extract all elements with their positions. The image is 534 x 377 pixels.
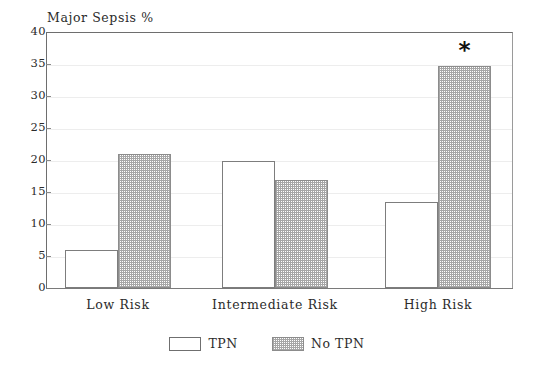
legend-label-tpn: TPN: [208, 336, 238, 351]
x-tick-label-intermediate-risk: Intermediate Risk: [212, 297, 338, 312]
bar-low-risk-tpn: [65, 250, 118, 288]
bar-intermediate-risk-no-tpn: [275, 180, 328, 288]
x-axis-baseline: [46, 288, 513, 289]
legend-swatch-no-tpn: [272, 337, 304, 351]
y-tick-label-15: 15: [8, 186, 46, 198]
y-tick-label-5: 5: [8, 250, 46, 262]
legend-item-tpn: TPN: [169, 336, 238, 351]
bar-high-risk-tpn: [385, 202, 438, 288]
bar-low-risk-no-tpn: [118, 154, 171, 288]
y-tick-label-35: 35: [8, 58, 46, 70]
y-tick-label-10: 10: [8, 218, 46, 230]
legend-item-no-tpn: No TPN: [272, 336, 365, 351]
y-tick-label-20: 20: [8, 154, 46, 166]
legend-label-no-tpn: No TPN: [311, 336, 365, 351]
y-tick-label-40: 40: [8, 26, 46, 38]
y-tick-label-30: 30: [8, 90, 46, 102]
bars-layer: [46, 32, 513, 288]
bar-high-risk-no-tpn: [438, 66, 491, 288]
significance-asterisk: *: [458, 39, 470, 62]
chart-legend: TPNNo TPN: [0, 336, 534, 351]
legend-swatch-tpn: [169, 337, 201, 351]
bar-chart-figure: Major Sepsis % 4035302520151050 Low Risk…: [0, 0, 534, 377]
x-tick-label-low-risk: Low Risk: [86, 297, 150, 312]
x-tick-label-high-risk: High Risk: [404, 297, 473, 312]
chart-title: Major Sepsis %: [47, 10, 154, 25]
y-tick-label-25: 25: [8, 122, 46, 134]
y-tick-label-0: 0: [8, 282, 46, 294]
y-axis: 4035302520151050: [0, 32, 46, 289]
bar-intermediate-risk-tpn: [222, 161, 275, 288]
